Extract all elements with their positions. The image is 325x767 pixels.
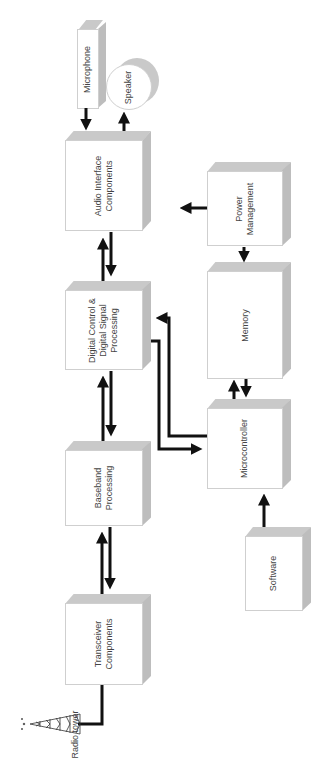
radio-tower-icon xyxy=(21,714,80,734)
connectors xyxy=(0,0,325,767)
block-diagram: Microphone Speaker Audio Interface Compo… xyxy=(0,0,325,767)
